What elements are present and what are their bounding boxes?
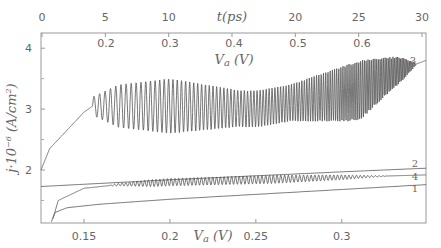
top-tick-label: 0 [39, 11, 46, 24]
inner-va-tick-label: 0.3 [161, 37, 179, 50]
curve-label-3: 3 [410, 55, 416, 66]
top-tick-label: 25 [352, 11, 366, 24]
inner-va-tick-label: 0.6 [353, 37, 371, 50]
top-tick-label: 5 [102, 11, 109, 24]
curve-label-4: 4 [412, 171, 418, 182]
y-tick-label: 2 [25, 164, 32, 177]
x-tick-label: 0.3 [333, 230, 351, 243]
inner-va-tick-label: 0.4 [225, 37, 243, 50]
curve-4 [53, 175, 426, 219]
top-tick-label: 20 [288, 11, 302, 24]
inner-va-tick-label: 0.2 [97, 37, 115, 50]
curve-label-1: 1 [412, 183, 418, 194]
y-tick-label: 4 [25, 42, 32, 55]
curve-1 [51, 185, 426, 222]
y-axis-label: j·10−6 (A/cm2) [4, 83, 19, 175]
x-tick-label: 0.2 [161, 230, 179, 243]
y-tick-label: 3 [25, 103, 32, 116]
inner-va-axis-label: Va (V) [214, 52, 253, 68]
chart: 2340.150.20.250.30510t(ps)2025300.20.30.… [0, 0, 441, 248]
x-tick-label: 0.15 [72, 230, 97, 243]
curves [41, 57, 426, 222]
x-axis-label: Va (V) [193, 228, 232, 244]
inner-va-tick-label: 0.5 [289, 37, 307, 50]
top-tick-label: 30 [415, 11, 429, 24]
top-axis-label: t(ps) [217, 9, 247, 24]
curve-label-2: 2 [412, 158, 418, 169]
axis-labels: 2340.150.20.250.30510t(ps)2025300.20.30.… [4, 9, 429, 244]
x-tick-label: 0.25 [244, 230, 269, 243]
top-tick-label: 10 [162, 11, 176, 24]
curve-3 [41, 57, 426, 170]
